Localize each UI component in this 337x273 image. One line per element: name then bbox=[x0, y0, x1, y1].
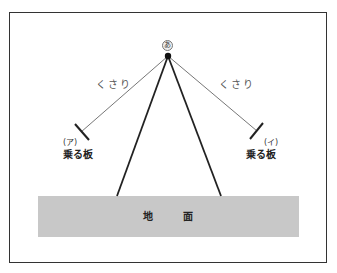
pivot-label-circle: あ bbox=[162, 40, 173, 51]
left-seat-label: 乗る板 bbox=[63, 150, 93, 160]
pivot-dot bbox=[165, 53, 171, 59]
right-chain-label: くさり bbox=[219, 80, 255, 90]
right-support-line bbox=[168, 56, 221, 196]
right-seat-mark: (イ) bbox=[264, 139, 278, 147]
ground-char-1: 地 bbox=[143, 212, 153, 222]
left-seat-mark: (ア) bbox=[63, 139, 77, 147]
ground-rect bbox=[38, 196, 299, 237]
right-seat-bar bbox=[250, 123, 263, 139]
left-support-line bbox=[117, 56, 168, 196]
right-seat-label: 乗る板 bbox=[246, 150, 276, 160]
ground-char-2: 面 bbox=[183, 212, 193, 222]
left-chain-label: くさり bbox=[96, 80, 132, 90]
